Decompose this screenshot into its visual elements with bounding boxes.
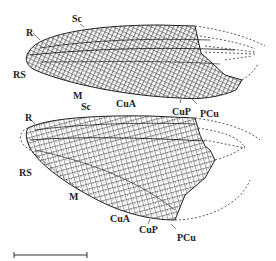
upper-label-m: M bbox=[73, 91, 82, 101]
upper-wing bbox=[26, 24, 265, 104]
lower-label-sc: Sc bbox=[81, 102, 91, 112]
lower-label-cua: CuA bbox=[110, 214, 130, 224]
lower-label-rs: RS bbox=[19, 168, 32, 178]
upper-label-sc: Sc bbox=[72, 14, 82, 24]
lower-label-r: R bbox=[25, 113, 32, 123]
lower-label-cup: CuP bbox=[139, 225, 158, 235]
lower-label-pcu: PCu bbox=[177, 233, 196, 243]
upper-label-rs: RS bbox=[13, 70, 26, 80]
wing-drawings bbox=[0, 0, 276, 261]
upper-label-cup: CuP bbox=[172, 107, 191, 117]
upper-label-pcu: PCu bbox=[200, 109, 219, 119]
upper-label-cua: CuA bbox=[116, 99, 136, 109]
lower-wing bbox=[20, 116, 260, 229]
scale-bar bbox=[14, 252, 87, 258]
upper-label-r: R bbox=[26, 28, 33, 38]
lower-label-m: M bbox=[69, 192, 78, 202]
wing-figure: Sc R RS M CuA CuP PCu Sc R RS M CuA CuP … bbox=[0, 0, 276, 261]
